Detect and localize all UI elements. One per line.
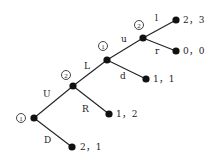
payoff-terminal-3: 1，1 [153, 74, 175, 84]
payoff-terminal-4: 1，2 [116, 109, 138, 119]
edge-label-d: d [120, 71, 126, 81]
edge-D [34, 118, 72, 147]
edge-U [34, 86, 73, 118]
edge-l [143, 20, 176, 38]
player-label-node-3: 1 [98, 41, 108, 51]
decision-node-3 [103, 56, 110, 63]
decision-node-4 [139, 34, 146, 41]
payoff-terminal-2: 0，0 [183, 46, 205, 56]
edge-label-R: R [82, 104, 89, 114]
terminal-node-4 [105, 110, 112, 117]
decision-node-2 [69, 82, 76, 89]
payoff-terminal-1: 2，3 [183, 15, 205, 25]
terminal-node-3 [142, 75, 149, 82]
edge-label-U: U [43, 89, 51, 99]
terminal-node-5 [68, 143, 75, 150]
terminal-node-1 [172, 16, 179, 23]
edge-label-l: l [155, 13, 158, 23]
player-label-node-2: 2 [61, 70, 71, 80]
terminal-node-2 [172, 47, 179, 54]
player-label-node-1: 1 [16, 113, 26, 123]
edge-label-L: L [84, 61, 90, 71]
edge-label-r: r [155, 46, 159, 56]
edge-r [143, 38, 176, 51]
edge-label-D: D [44, 135, 51, 145]
payoff-terminal-5: 2，1 [80, 142, 102, 152]
player-label-node-4: 2 [134, 20, 144, 30]
edge-R [73, 86, 109, 114]
edge-label-u: u [121, 34, 127, 44]
decision-node-1 [30, 114, 37, 121]
edge-L [73, 60, 107, 86]
edge-d [107, 60, 146, 79]
